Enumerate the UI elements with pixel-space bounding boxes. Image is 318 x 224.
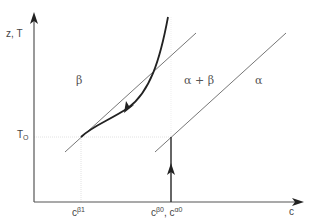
guide-lines <box>34 17 171 202</box>
region-alpha-beta-label: α + β <box>184 75 214 86</box>
T0-subscript: O <box>23 134 28 141</box>
x-axis-label: c <box>289 207 294 217</box>
region-beta-label: β <box>76 75 82 86</box>
region-alpha-label: α <box>255 75 262 86</box>
T0-label: TO <box>17 130 29 141</box>
solidification-path-curve <box>81 17 168 137</box>
c-beta1-sup: β1 <box>77 206 85 213</box>
alpha-boundary-line <box>155 33 286 152</box>
c-beta0-alpha0-label: cβ0, cα0 <box>151 206 182 218</box>
c-beta1-label: cβ1 <box>72 206 85 218</box>
y-axis-label: z, T <box>6 29 22 39</box>
c-beta0-sup: β0 <box>156 206 164 213</box>
curve-direction-arrow-icon <box>124 101 134 113</box>
c-alpha0-sup: α0 <box>174 206 182 213</box>
phase-diagram <box>0 0 318 224</box>
